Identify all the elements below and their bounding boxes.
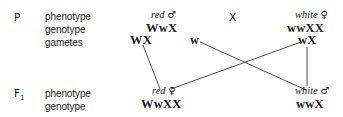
male-symbol-icon: ♂ bbox=[320, 85, 329, 96]
p-female-phenotype: white ♀ bbox=[295, 9, 328, 20]
p-generation-label: P bbox=[14, 11, 20, 23]
row-label-phenotype: phenotype bbox=[45, 88, 91, 101]
f1-label-subscript: 1 bbox=[20, 94, 24, 102]
row-label-genotype: genotype bbox=[45, 101, 91, 114]
f1-female-genotype: WwXX bbox=[141, 97, 181, 112]
p-row-labels: phenotype genotype gametes bbox=[45, 11, 91, 50]
row-label-gametes: gametes bbox=[45, 37, 91, 50]
female-symbol-icon: ♀ bbox=[320, 9, 327, 20]
line-WX-to-red-female bbox=[143, 45, 160, 89]
line-wX-to-red-female bbox=[171, 42, 301, 89]
f1-row-labels: phenotype genotype bbox=[45, 88, 91, 114]
f1-male-genotype: wwX bbox=[296, 97, 324, 112]
male-symbol-icon: ♂ bbox=[167, 9, 176, 20]
f1-generation-label: F1 bbox=[14, 87, 25, 102]
gamete-WX: WX bbox=[130, 33, 152, 48]
row-label-genotype: genotype bbox=[45, 24, 91, 37]
f1-female-phenotype: red ♀ bbox=[152, 85, 176, 96]
line-w-to-white-male bbox=[200, 42, 306, 90]
p-male-phenotype: red ♂ bbox=[151, 9, 176, 20]
phenotype-text: white bbox=[295, 85, 318, 96]
phenotype-text: red bbox=[152, 85, 166, 96]
phenotype-text: red bbox=[151, 9, 165, 20]
cross-symbol: X bbox=[229, 11, 236, 23]
gamete-wX: wX bbox=[298, 33, 316, 48]
row-label-phenotype: phenotype bbox=[45, 11, 91, 24]
f1-male-phenotype: white ♂ bbox=[295, 85, 329, 96]
female-symbol-icon: ♀ bbox=[168, 85, 175, 96]
phenotype-text: white bbox=[295, 9, 318, 20]
gamete-w: w bbox=[190, 33, 199, 48]
